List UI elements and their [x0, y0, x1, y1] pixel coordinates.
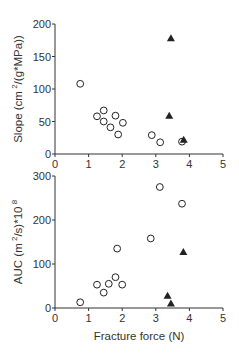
- data-point-triangle: [164, 292, 172, 299]
- y-tick-label: 100: [33, 83, 51, 95]
- auc-scatter-panel: 0100200300012345AUC (m 2/s)*10 8Fracture…: [10, 170, 226, 342]
- data-point-circle: [77, 299, 84, 306]
- data-point-circle: [147, 235, 154, 242]
- data-point-circle: [105, 280, 112, 287]
- data-point-triangle: [165, 112, 173, 119]
- y-tick-label: 200: [33, 18, 51, 30]
- x-tick-label: 4: [186, 158, 192, 170]
- data-point-circle: [148, 132, 155, 139]
- data-point-circle: [100, 118, 107, 125]
- data-point-circle: [114, 245, 121, 252]
- data-point-circle: [112, 112, 119, 119]
- x-tick-label: 3: [153, 312, 159, 324]
- x-axis-title: Fracture force (N): [94, 330, 185, 342]
- x-tick-label: 5: [220, 312, 226, 324]
- data-point-circle: [119, 119, 126, 126]
- data-point-circle: [157, 139, 164, 146]
- data-point-circle: [77, 80, 84, 87]
- x-tick-label: 0: [52, 158, 58, 170]
- x-tick-label: 0: [52, 312, 58, 324]
- x-tick-label: 3: [153, 158, 159, 170]
- data-point-circle: [107, 124, 114, 131]
- y-tick-label: 150: [33, 51, 51, 63]
- data-point-circle: [100, 107, 107, 114]
- data-point-triangle: [167, 34, 175, 41]
- y-axis-title: Slope (cm 2/(g*MPa)): [10, 35, 24, 143]
- data-point-circle: [94, 281, 101, 288]
- data-point-circle: [112, 274, 119, 281]
- x-tick-label: 2: [119, 158, 125, 170]
- y-tick-label: 300: [33, 170, 51, 182]
- slope-scatter-panel: 050100150200012345Slope (cm 2/(g*MPa)): [10, 18, 226, 170]
- data-point-triangle: [179, 248, 187, 255]
- data-point-circle: [179, 200, 186, 207]
- y-axis-title: AUC (m 2/s)*10 8: [10, 199, 24, 284]
- data-point-triangle: [167, 300, 175, 307]
- data-point-circle: [115, 131, 122, 138]
- x-tick-label: 4: [186, 312, 192, 324]
- data-point-circle: [100, 289, 107, 296]
- data-point-triangle: [180, 136, 188, 143]
- x-tick-label: 1: [86, 312, 92, 324]
- y-tick-label: 0: [45, 302, 51, 314]
- data-point-circle: [94, 113, 101, 120]
- y-tick-label: 100: [33, 258, 51, 270]
- x-tick-label: 5: [220, 158, 226, 170]
- chart-figure: 050100150200012345Slope (cm 2/(g*MPa)) 0…: [0, 0, 239, 357]
- x-tick-label: 2: [119, 312, 125, 324]
- y-tick-label: 200: [33, 214, 51, 226]
- y-tick-label: 0: [45, 148, 51, 160]
- data-point-circle: [119, 281, 126, 288]
- data-point-circle: [156, 184, 163, 191]
- y-tick-label: 50: [39, 116, 51, 128]
- x-tick-label: 1: [86, 158, 92, 170]
